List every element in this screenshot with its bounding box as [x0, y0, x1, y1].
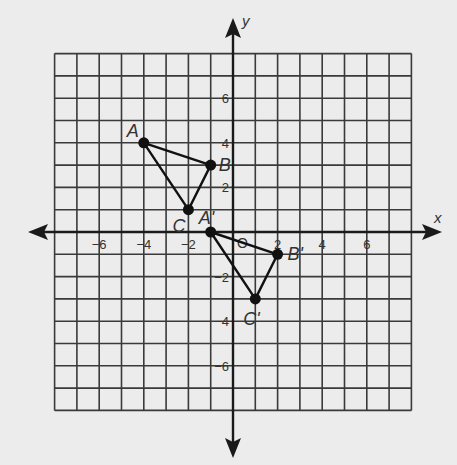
y-tick-label: −6: [214, 359, 229, 374]
triangle-abc: [144, 143, 211, 210]
vertex-point: [272, 249, 283, 260]
y-axis-label: y: [241, 12, 251, 29]
vertex-label: B: [219, 155, 231, 175]
x-tick-label: −4: [136, 237, 151, 252]
vertex-point: [205, 227, 216, 238]
vertex-label: B': [288, 244, 304, 264]
vertex-label: C: [172, 216, 186, 236]
triangle-aprimebprimecprime: [211, 232, 278, 299]
vertex-label: A: [126, 121, 139, 141]
y-tick-label: 2: [222, 180, 229, 195]
vertex-point: [205, 160, 216, 171]
x-axis-label: x: [433, 209, 442, 226]
y-tick-label: −2: [214, 270, 229, 285]
axes: xy: [28, 12, 442, 458]
coordinate-plane-svg: xy −6−4−2246642−2−4−6O ABCA'B'C': [0, 0, 457, 465]
vertex-label: A': [198, 208, 215, 228]
vertex-point: [250, 293, 261, 304]
vertex-point: [138, 137, 149, 148]
vertex-point: [183, 204, 194, 215]
y-tick-label: 4: [222, 136, 229, 151]
y-tick-label: −4: [214, 314, 229, 329]
vertex-label: C': [243, 309, 260, 329]
y-tick-label: 6: [222, 91, 229, 106]
x-tick-label: 4: [319, 237, 326, 252]
coordinate-plane: xy −6−4−2246642−2−4−6O ABCA'B'C' x y O: [0, 0, 457, 465]
x-tick-label: −6: [92, 237, 107, 252]
x-tick-label: −2: [181, 237, 196, 252]
x-tick-label: 6: [363, 237, 370, 252]
